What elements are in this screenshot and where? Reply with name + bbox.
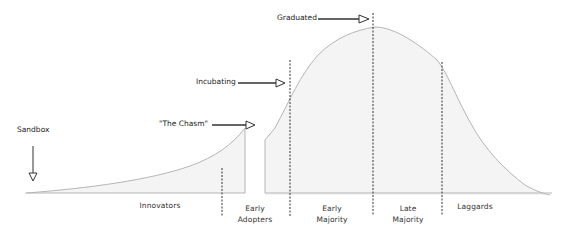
early-majority-line1: Early <box>307 203 357 214</box>
segment-early-majority-label: Early Majority <box>307 203 357 225</box>
segment-laggards-label: Laggards <box>450 201 500 212</box>
innovators-area <box>27 128 245 193</box>
late-majority-line1: Late <box>383 203 433 214</box>
early-adopters-line2: Adopters <box>232 214 278 225</box>
chasm-label: "The Chasm" <box>159 119 208 128</box>
chasm-arrow-icon <box>212 121 255 129</box>
graduated-arrow-icon <box>318 15 369 23</box>
incubating-arrow-icon <box>238 79 285 87</box>
curve-canvas <box>0 0 568 235</box>
segment-late-majority-label: Late Majority <box>383 203 433 225</box>
sandbox-arrow-icon <box>29 146 37 181</box>
sandbox-label: Sandbox <box>17 125 49 134</box>
adoption-curve-diagram: ​ <box>0 0 568 235</box>
segment-innovators-label: Innovators <box>130 200 190 211</box>
early-majority-line2: Majority <box>307 214 357 225</box>
segment-early-adopters-label: Early Adopters <box>232 203 278 225</box>
graduated-label: Graduated <box>277 13 317 22</box>
incubating-label: Incubating <box>196 77 236 86</box>
early-adopters-line1: Early <box>232 203 278 214</box>
late-majority-line2: Majority <box>383 214 433 225</box>
